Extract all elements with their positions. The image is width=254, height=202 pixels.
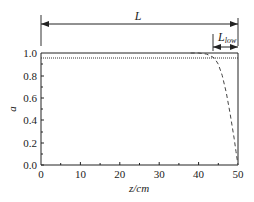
x-tick-labels: 0 10 20 30 40 50 [38,168,244,180]
y-tick-labels: 0.0 0.2 0.4 0.6 0.8 1.0 [23,47,37,171]
svg-text:0: 0 [38,168,44,180]
svg-text:0.0: 0.0 [23,159,37,171]
svg-text:0.2: 0.2 [23,137,37,149]
chart: L Llow 0.0 0.2 0.4 0.6 0.8 1.0 [0,0,254,202]
dim-Llow-label: Llow [217,30,237,45]
svg-text:0.4: 0.4 [23,114,37,126]
y-axis-label: a [6,106,18,112]
x-axis-label: z/cm [128,182,149,194]
svg-text:10: 10 [75,168,87,180]
axes [41,53,238,165]
svg-text:40: 40 [193,168,205,180]
dim-L-label: L [134,9,142,23]
svg-text:0.8: 0.8 [23,70,37,82]
svg-text:50: 50 [233,168,245,180]
svg-text:0.6: 0.6 [23,92,37,104]
svg-text:30: 30 [154,168,166,180]
series-dashed [191,53,238,165]
svg-text:1.0: 1.0 [23,47,37,59]
svg-text:20: 20 [114,168,126,180]
dimension-L: L [41,9,238,46]
dimension-L-low: Llow [213,30,238,51]
